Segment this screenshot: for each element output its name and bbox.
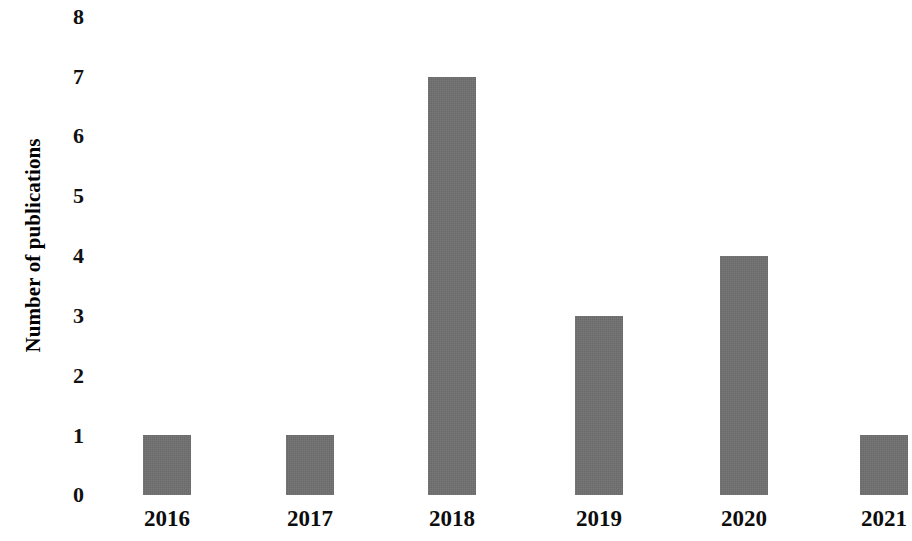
bar [575,316,623,495]
bar [860,435,908,495]
x-axis-tick-label: 2016 [144,507,190,530]
x-axis-tick-label: 2020 [721,507,767,530]
y-axis-tick-label: 6 [50,125,84,147]
y-axis-tick-labels: 8 7 6 5 4 3 2 1 0 [50,0,84,541]
y-axis-tick-label: 3 [50,305,84,327]
y-axis-tick-label: 7 [50,66,84,88]
x-axis-tick-label: 2017 [287,507,333,530]
x-axis-tick-label: 2019 [576,507,622,530]
bar [286,435,334,495]
bar-chart: Number of publications 8 7 6 5 4 3 2 1 0… [0,0,912,541]
bar [720,256,768,495]
bar [428,77,476,495]
y-axis-title: Number of publications [21,96,46,396]
y-axis-tick-label: 0 [50,484,84,506]
bar [143,435,191,495]
x-axis-tick-label: 2018 [429,507,475,530]
y-axis-tick-label: 1 [50,425,84,447]
y-axis-tick-label: 8 [50,6,84,28]
plot-area: 2016 2017 2018 2019 2020 2021 [100,0,912,541]
y-axis-tick-label: 4 [50,245,84,267]
y-axis-tick-label: 2 [50,365,84,387]
y-axis-tick-label: 5 [50,185,84,207]
x-axis-tick-label: 2021 [861,507,907,530]
